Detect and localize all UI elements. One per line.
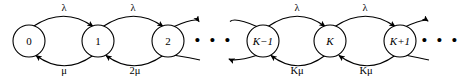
state-label-k: K [325, 35, 334, 47]
state-label-k-1: K−1 [252, 35, 273, 47]
arc-backward-2-to-1 [106, 56, 163, 66]
rate-label-lambda-k-k1: λ [362, 2, 368, 13]
arc-forward-k+1-to-next [405, 20, 428, 27]
rate-label-lambda-1-2: λ [130, 2, 136, 13]
state-label-0: 0 [26, 35, 32, 47]
state-label-2: 2 [165, 35, 171, 47]
rate-label-2mu-2-1: 2μ [130, 65, 141, 76]
arc-forward-0-to-1 [33, 16, 93, 26]
state-label-1: 1 [95, 35, 101, 47]
backward-rate-labels: μ 2μ Kμ Kμ [61, 65, 373, 76]
chain-svg-canvas: 0 1 2 K−1 K K+1 λ λ λ λ μ 2μ Kμ Kμ • • •… [0, 0, 462, 81]
rate-label-kmu-k1-k: Kμ [359, 65, 373, 76]
forward-transition-arcs [33, 16, 428, 27]
arc-forward-k-1-to-k [268, 16, 325, 26]
rate-label-lambda-k1-k: λ [294, 2, 300, 13]
ellipsis-right: • • • [422, 32, 460, 48]
arc-forward-k-to-k+1 [335, 16, 395, 26]
arc-backward-next-to-k+1 [405, 55, 429, 60]
forward-rate-labels: λ λ λ λ [61, 2, 368, 13]
arc-backward-k-to-k-1 [271, 56, 325, 66]
state-label-k+1: K+1 [389, 35, 410, 47]
rate-label-lambda-0-1: λ [61, 2, 67, 13]
rate-label-mu-1-0: μ [61, 65, 67, 76]
arc-backward-k-1-to-prev [229, 55, 258, 60]
rate-label-kmu-k-k1: Kμ [290, 65, 304, 76]
arc-forward-1-to-2 [103, 16, 163, 26]
arc-forward-2-to-next [173, 20, 199, 27]
arc-backward-k+1-to-k [339, 56, 395, 66]
ellipsis-middle: • • • [195, 32, 233, 48]
arc-forward-prev-to-k-1 [230, 20, 258, 27]
markov-chain-diagram: 0 1 2 K−1 K K+1 λ λ λ λ μ 2μ Kμ Kμ • • •… [0, 0, 462, 81]
arc-backward-1-to-0 [36, 56, 93, 66]
arc-backward-next-to-2 [173, 55, 200, 60]
